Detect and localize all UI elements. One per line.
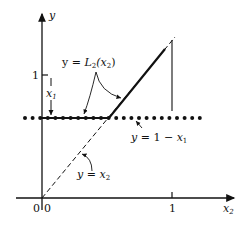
L2-label: y = L2(x2) [61, 56, 115, 70]
x-axis-label: x2 [223, 202, 234, 216]
dashed-label: y = x2 [76, 168, 110, 182]
diagram: x1 y = L2(x2) yy = 1 − x = 1 − x1 y = x2… [0, 0, 245, 225]
dotted-label: yy = 1 − x = 1 − x1 [130, 131, 187, 145]
dotted-label-pointer [136, 121, 142, 128]
x1-marker-label: x1 [46, 87, 57, 101]
L2-pointer-left [84, 72, 96, 114]
origin-label-left: 0 [33, 202, 40, 215]
L2-pointer-right [96, 72, 121, 98]
y-axis-label: y [48, 9, 56, 22]
origin-label-right: 0 [44, 202, 51, 215]
y-tick-label-1: 1 [32, 69, 39, 82]
x-tick-label-1: 1 [169, 202, 176, 215]
